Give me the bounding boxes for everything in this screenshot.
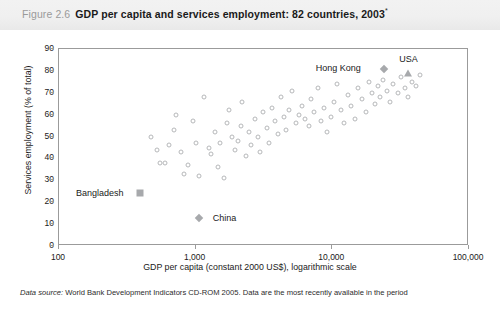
data-point	[334, 82, 339, 87]
data-point	[215, 165, 220, 170]
data-point	[246, 130, 251, 135]
figure-title-band: Figure 2.6GDP per capita and services em…	[0, 0, 500, 30]
highlighted-data-point	[380, 64, 388, 72]
data-point	[395, 90, 400, 95]
data-point	[328, 114, 333, 119]
data-point	[167, 143, 172, 148]
data-point	[255, 134, 260, 139]
y-tick-mark	[50, 201, 54, 202]
data-point	[225, 121, 230, 126]
y-tick-mark	[50, 223, 54, 224]
data-point	[391, 82, 396, 87]
data-point	[212, 130, 217, 135]
figure-title-superscript: *	[385, 7, 388, 14]
data-point	[178, 149, 183, 154]
highlighted-data-point	[136, 190, 143, 197]
data-point	[190, 119, 195, 124]
data-point	[363, 110, 368, 115]
data-point	[197, 173, 202, 178]
x-tick-label: 100,000	[453, 252, 484, 262]
data-point	[293, 121, 298, 126]
data-point	[338, 108, 343, 113]
data-point	[414, 84, 419, 89]
data-point	[209, 152, 214, 157]
data-point	[318, 119, 323, 124]
data-point	[296, 112, 301, 117]
x-tick-label: 100	[51, 252, 65, 262]
data-point	[260, 110, 265, 115]
data-point	[181, 171, 186, 176]
y-tick-mark	[50, 48, 54, 49]
plot-frame: Hong KongUSABangladeshChina	[58, 48, 468, 245]
y-tick-mark	[50, 157, 54, 158]
data-point	[315, 86, 320, 91]
data-point	[378, 95, 383, 100]
data-point	[300, 103, 305, 108]
data-point	[252, 117, 257, 122]
highlighted-data-point	[194, 213, 202, 221]
data-point	[352, 117, 357, 122]
data-point-label: USA	[399, 54, 418, 64]
data-point	[312, 110, 317, 115]
data-point	[163, 160, 168, 165]
figure-number: Figure 2.6	[22, 8, 70, 20]
figure-container: Figure 2.6GDP per capita and services em…	[0, 0, 500, 309]
data-point	[360, 97, 365, 102]
data-point	[275, 132, 280, 137]
data-point	[269, 106, 274, 111]
x-tick-label: 1,000	[184, 252, 205, 262]
data-point	[236, 138, 241, 143]
data-point	[264, 125, 269, 130]
data-point	[217, 141, 222, 146]
data-point	[381, 77, 386, 82]
data-point	[281, 114, 286, 119]
source-note-label: Data source:	[20, 288, 63, 297]
data-point	[372, 101, 377, 106]
data-point	[306, 123, 311, 128]
data-point	[206, 145, 211, 150]
data-point	[278, 95, 283, 100]
data-point-label: China	[213, 213, 237, 223]
figure-title: Figure 2.6GDP per capita and services em…	[22, 7, 388, 20]
data-point	[325, 130, 330, 135]
data-point	[221, 176, 226, 181]
data-point	[226, 108, 231, 113]
plot-area: Services employment (% of total) 0102030…	[0, 30, 500, 268]
data-point	[148, 134, 153, 139]
data-point	[345, 92, 350, 97]
data-point	[349, 103, 354, 108]
data-point	[244, 154, 249, 159]
x-axis-title: GDP per capita (constant 2000 US$), loga…	[0, 262, 500, 272]
data-point	[384, 88, 389, 93]
data-point	[272, 119, 277, 124]
data-point	[239, 123, 244, 128]
data-point-label: Bangladesh	[76, 188, 124, 198]
data-point	[174, 112, 179, 117]
y-tick-mark	[50, 179, 54, 180]
source-note-text: World Bank Development Indicators CD-ROM…	[65, 288, 408, 297]
data-point	[201, 95, 206, 100]
x-tick-mark	[195, 245, 196, 249]
y-axis-ticks: 0102030405060708090	[28, 48, 54, 245]
data-point	[388, 99, 393, 104]
y-tick-mark	[50, 245, 54, 246]
y-tick-mark	[50, 136, 54, 137]
data-point	[257, 149, 262, 154]
data-point	[233, 147, 238, 152]
data-point	[249, 143, 254, 148]
data-point	[240, 99, 245, 104]
data-point	[406, 95, 411, 100]
data-point	[172, 127, 177, 132]
data-point	[309, 97, 314, 102]
data-point-label: Hong Kong	[316, 63, 361, 73]
x-tick-mark	[468, 245, 469, 249]
x-tick-label: 10,000	[318, 252, 344, 262]
data-point	[154, 147, 159, 152]
highlighted-data-point	[404, 70, 412, 77]
data-point	[342, 121, 347, 126]
data-point	[322, 106, 327, 111]
data-point	[375, 84, 380, 89]
data-point	[356, 86, 361, 91]
data-point	[284, 127, 289, 132]
data-point	[193, 141, 198, 146]
